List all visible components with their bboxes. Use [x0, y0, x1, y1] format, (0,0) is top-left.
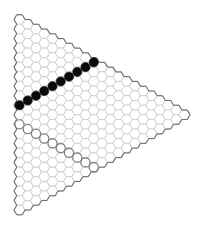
white-stone — [89, 163, 98, 172]
white-stone — [40, 134, 49, 143]
white-stone — [73, 153, 82, 162]
white-stone — [31, 129, 40, 138]
black-stone — [64, 72, 73, 81]
black-stone — [23, 96, 32, 105]
white-stone — [23, 125, 32, 134]
black-stone — [31, 91, 40, 100]
black-stone — [40, 86, 49, 95]
hex-cells[interactable] — [14, 15, 190, 215]
black-stone — [81, 63, 90, 72]
black-stone — [73, 67, 82, 76]
white-stone — [64, 148, 73, 157]
black-stone — [89, 58, 98, 67]
black-stone — [56, 77, 65, 86]
black-stone — [48, 82, 57, 91]
black-stone — [15, 101, 24, 110]
white-stone — [48, 139, 57, 148]
game-board[interactable] — [0, 0, 201, 232]
white-stone — [15, 120, 24, 129]
white-stone — [56, 144, 65, 153]
white-stone — [81, 158, 90, 167]
